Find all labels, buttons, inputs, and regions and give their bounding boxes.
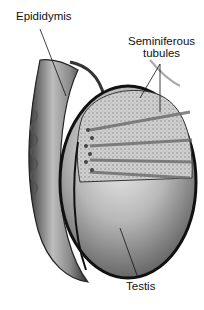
seminiferous-tubules-label: Seminiferous tubules bbox=[128, 35, 195, 59]
seminiferous-section bbox=[77, 90, 192, 182]
epididymis-label: Epididymis bbox=[16, 10, 72, 22]
seminiferous-label-line2: tubules bbox=[128, 47, 195, 59]
testis-label: Testis bbox=[126, 280, 155, 292]
seminiferous-label-line1: Seminiferous bbox=[128, 35, 195, 47]
